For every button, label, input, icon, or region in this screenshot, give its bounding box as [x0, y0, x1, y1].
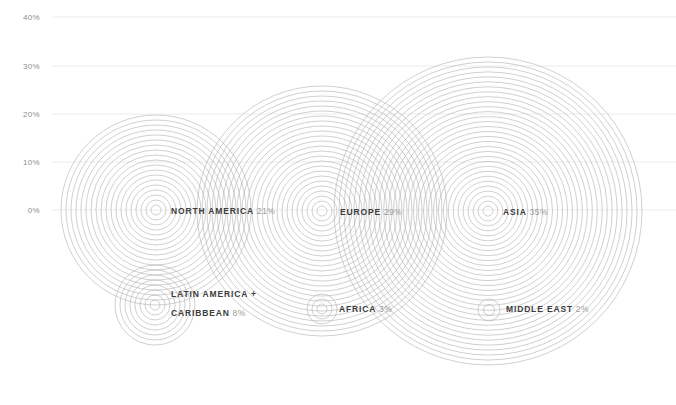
ring — [468, 191, 508, 231]
y-tick-40: 40% — [0, 13, 40, 22]
chart-canvas — [0, 0, 676, 405]
ring — [433, 156, 542, 265]
ring — [448, 171, 527, 250]
ring — [247, 136, 397, 286]
ring — [443, 166, 532, 255]
y-tick-10: 10% — [0, 158, 40, 167]
ring — [483, 206, 493, 216]
ring — [312, 201, 332, 221]
ring — [317, 206, 327, 216]
ring — [379, 102, 598, 321]
ring — [453, 176, 523, 246]
ring — [409, 132, 568, 291]
ring — [404, 127, 573, 296]
ring — [212, 101, 432, 321]
ring — [458, 181, 518, 241]
bubble-africa — [307, 294, 337, 324]
y-tick-0: 0% — [0, 206, 40, 215]
ring — [473, 196, 503, 226]
ring — [334, 57, 642, 365]
ring — [302, 191, 342, 231]
ring — [364, 87, 612, 335]
ring — [307, 294, 337, 324]
ring — [257, 146, 387, 276]
ring — [297, 186, 347, 236]
ring — [359, 82, 617, 340]
ring — [478, 201, 498, 221]
ring — [237, 126, 407, 296]
y-tick-20: 20% — [0, 110, 40, 119]
ring — [292, 181, 352, 241]
ring — [317, 304, 327, 314]
ring — [217, 106, 427, 316]
bubble-asia — [334, 57, 642, 365]
ring — [277, 166, 367, 256]
ring — [384, 107, 593, 316]
ring — [369, 92, 607, 330]
ring — [197, 86, 447, 336]
ring — [282, 171, 362, 251]
ring — [374, 97, 603, 326]
bubble-rings — [61, 57, 642, 365]
ring — [423, 146, 552, 275]
ring — [399, 122, 578, 301]
ring — [267, 156, 377, 266]
gridlines — [52, 17, 676, 210]
ring — [287, 176, 357, 246]
ring — [428, 151, 547, 270]
y-tick-30: 30% — [0, 62, 40, 71]
bubble-chart: 0%10%20%30%40% NORTH AMERICA 21%EUROPE 2… — [0, 0, 676, 405]
ring — [202, 91, 442, 331]
ring — [307, 196, 337, 226]
ring — [463, 186, 513, 236]
ring — [232, 121, 412, 301]
ring — [242, 131, 402, 291]
bubble-europe — [197, 86, 447, 336]
ring — [207, 96, 437, 326]
